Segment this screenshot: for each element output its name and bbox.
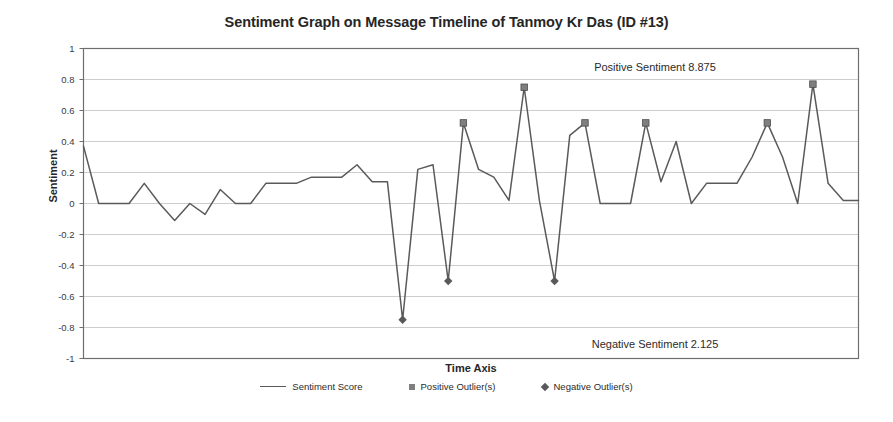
positive-outlier-marker [764,120,771,127]
positive-outlier-markers [460,81,816,126]
chart-legend: Sentiment Score Positive Outlier(s) Nega… [0,381,893,392]
positive-outlier-marker [810,81,817,88]
sentiment-score-line [84,84,859,320]
negative-outlier-marker [444,277,452,285]
y-tick-label: 0.6 [61,105,74,116]
diamond-marker-icon [540,382,548,390]
y-axis-tick-labels: 10.80.60.40.20-0.2-0.4-0.6-0.8-1 [58,43,74,364]
y-tick-label: -0.6 [58,291,74,302]
positive-outlier-marker [460,120,467,127]
line-swatch-icon [260,386,286,387]
y-tick-label: 0.8 [61,74,74,85]
legend-item-sentiment-score: Sentiment Score [260,381,362,392]
y-tick-label: 0.4 [61,136,74,147]
y-tick-label: -0.8 [58,322,74,333]
positive-outlier-marker [582,120,589,127]
y-tick-label: 0.2 [61,167,74,178]
y-tick-label: -1 [66,353,74,364]
legend-label-sentiment-score: Sentiment Score [292,381,362,392]
legend-item-negative-outliers: Negative Outlier(s) [542,381,633,392]
negative-outlier-markers [398,277,558,324]
positive-sentiment-annotation: Positive Sentiment 8.875 [594,61,716,73]
y-tick-label: 1 [69,43,74,54]
negative-sentiment-annotation: Negative Sentiment 2.125 [592,338,719,350]
y-tick-label: -0.2 [58,229,74,240]
sentiment-chart-figure: Sentiment Graph on Message Timeline of T… [0,0,893,422]
negative-outlier-marker [550,277,558,285]
legend-item-positive-outliers: Positive Outlier(s) [409,381,496,392]
positive-outlier-marker [643,120,650,127]
legend-label-negative-outliers: Negative Outlier(s) [554,381,633,392]
negative-outlier-marker [398,316,406,324]
plot-area: 10.80.60.40.20-0.2-0.4-0.6-0.8-1 Positiv… [0,0,893,422]
positive-outlier-marker [521,84,528,91]
square-marker-icon [409,384,415,390]
gridlines [84,80,859,328]
y-tick-label: 0 [69,198,74,209]
y-tick-label: -0.4 [58,260,74,271]
legend-label-positive-outliers: Positive Outlier(s) [421,381,496,392]
